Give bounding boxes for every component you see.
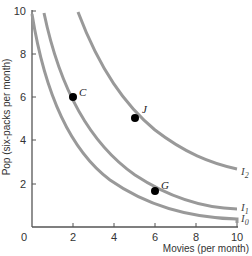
point-g-label: G [161, 179, 169, 191]
x-axis-title: Movies (per month) [163, 243, 249, 254]
y-tick-10: 10 [14, 5, 26, 17]
origin-label: 0 [21, 231, 27, 243]
indifference-curve-chart: 10 8 6 4 2 0 2 4 6 8 10 Movies (per mont… [0, 0, 252, 256]
curve-i1 [44, 13, 237, 209]
point-j [131, 114, 139, 122]
x-tick-6: 6 [152, 231, 158, 243]
y-tick-6: 6 [20, 91, 26, 103]
x-tick-8: 8 [193, 231, 199, 243]
y-tick-8: 8 [20, 48, 26, 60]
x-tick-10: 10 [231, 231, 243, 243]
point-c-label: C [79, 86, 87, 98]
point-c [69, 93, 77, 101]
x-tick-4: 4 [111, 231, 117, 243]
point-g [151, 187, 159, 195]
y-ticks: 10 8 6 4 2 [14, 5, 36, 190]
y-axis-title: Pop (six-packs per month) [1, 59, 12, 176]
y-tick-2: 2 [20, 178, 26, 190]
y-tick-4: 4 [20, 134, 26, 146]
x-tick-2: 2 [70, 231, 76, 243]
curve-label-i2: I2 [240, 165, 249, 180]
svg-text:I2: I2 [240, 165, 249, 180]
point-j-label: J [142, 103, 148, 115]
x-ticks: 0 2 4 6 8 10 [21, 223, 243, 243]
